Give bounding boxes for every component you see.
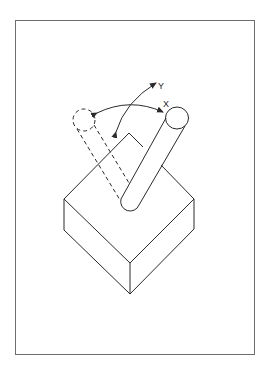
joystick-diagram: Y X xyxy=(0,0,269,373)
diagram-canvas: Y X xyxy=(0,0,269,373)
isometric-block xyxy=(64,133,194,294)
x-axis-label: X xyxy=(163,99,169,109)
y-axis-label: Y xyxy=(158,81,164,91)
rod-alternate-position xyxy=(73,109,129,200)
rod-current-position xyxy=(121,107,189,211)
